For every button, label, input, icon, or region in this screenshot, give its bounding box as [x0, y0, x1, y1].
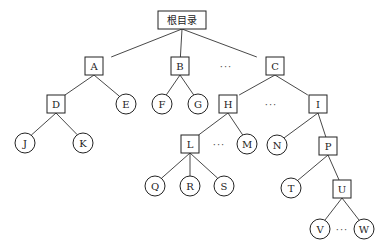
ellipsis-dots-bc: ···	[220, 61, 233, 72]
file-node-S[interactable]: S	[214, 176, 234, 196]
directory-node-C[interactable]: C	[266, 57, 284, 75]
node-label: T	[288, 183, 295, 194]
node-label: 根目录	[167, 14, 197, 26]
file-node-E[interactable]: E	[116, 94, 136, 114]
edge-L-Q	[161, 153, 190, 178]
file-node-N[interactable]: N	[267, 135, 287, 155]
edge-P-U	[328, 155, 339, 180]
directory-node-L[interactable]: L	[181, 135, 199, 153]
node-label: K	[79, 138, 87, 149]
edge-C-I	[275, 75, 308, 95]
node-label: R	[186, 181, 194, 192]
node-label: M	[242, 139, 252, 150]
edge-root-A	[111, 29, 182, 57]
file-node-F[interactable]: F	[152, 94, 172, 114]
file-node-V[interactable]: V	[310, 219, 330, 239]
node-label: A	[89, 61, 98, 72]
node-label: C	[271, 61, 279, 72]
node-label: H	[224, 99, 233, 110]
edge-C-H	[239, 75, 275, 95]
node-label: V	[315, 224, 324, 235]
file-node-M[interactable]: M	[237, 134, 257, 154]
ellipsis-dots-lm: ···	[213, 139, 226, 150]
node-label: G	[194, 99, 202, 110]
file-node-K[interactable]: K	[73, 133, 93, 153]
edge-U-W	[342, 198, 359, 220]
edge-H-M	[228, 113, 243, 135]
edge-I-P	[318, 113, 326, 137]
directory-node-A[interactable]: A	[85, 57, 103, 75]
file-node-J[interactable]: J	[15, 133, 35, 153]
directory-node-B[interactable]: B	[171, 57, 189, 75]
node-label: J	[22, 138, 27, 149]
edge-root-B	[180, 29, 182, 57]
directory-node-D[interactable]: D	[47, 95, 65, 113]
node-label: N	[273, 140, 282, 151]
edge-B-F	[166, 75, 180, 95]
directory-node-H[interactable]: H	[219, 95, 237, 113]
ellipsis-dots-vw: ···	[336, 224, 349, 235]
node-label: L	[187, 139, 194, 150]
file-node-Q[interactable]: Q	[145, 176, 165, 196]
edge-H-L	[199, 113, 228, 135]
edge-A-D	[65, 75, 94, 95]
tree-nodes: 根目录ABCDEFGHIJKLMNPQRSTUVW	[15, 11, 374, 239]
directory-node-U[interactable]: U	[333, 180, 351, 198]
file-node-W[interactable]: W	[354, 219, 374, 239]
directory-tree-diagram: 根目录ABCDEFGHIJKLMNPQRSTUVW ············	[0, 0, 387, 252]
edge-L-S	[190, 153, 218, 178]
file-node-R[interactable]: R	[180, 176, 200, 196]
edge-D-K	[56, 113, 77, 135]
node-label: F	[159, 99, 166, 110]
edge-A-E	[94, 75, 120, 96]
directory-node-P[interactable]: P	[319, 137, 337, 155]
node-label: D	[52, 99, 60, 110]
edge-P-T	[298, 155, 328, 180]
edge-B-G	[180, 75, 194, 95]
node-label: S	[221, 181, 228, 192]
node-label: B	[176, 61, 183, 72]
node-label: P	[325, 141, 332, 152]
node-label: U	[338, 184, 346, 195]
node-label: E	[122, 99, 129, 110]
file-node-G[interactable]: G	[188, 94, 208, 114]
directory-node-I[interactable]: I	[309, 95, 327, 113]
node-label: Q	[151, 181, 159, 192]
node-label: I	[316, 99, 320, 110]
edge-I-N	[284, 113, 318, 138]
directory-node-root[interactable]: 根目录	[158, 11, 206, 29]
file-node-T[interactable]: T	[281, 178, 301, 198]
ellipsis-dots-hi: ···	[265, 99, 278, 110]
edge-root-C	[182, 29, 257, 57]
edge-D-J	[31, 113, 56, 135]
node-label: W	[359, 224, 370, 235]
edge-U-V	[325, 198, 342, 220]
